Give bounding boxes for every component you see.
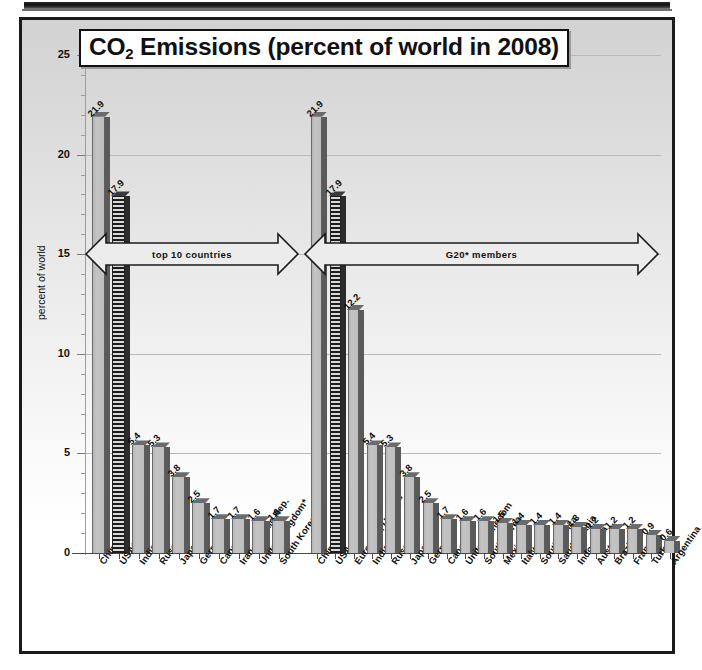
bar-face [385, 447, 396, 553]
bar-side [165, 447, 170, 553]
plot-area: 0510152025percent of world21.9China*17.9… [22, 20, 672, 651]
bar-face [192, 503, 205, 553]
bar-face [460, 521, 471, 553]
chart-frame: 0510152025percent of world21.9China*17.9… [19, 17, 675, 654]
bar-side [378, 445, 383, 553]
bar-side [322, 117, 327, 553]
y-axis-line [85, 53, 86, 555]
bar-face [367, 445, 378, 553]
bar-face [172, 477, 185, 553]
title-text-rest: Emissions (percent of world in 2008) [134, 33, 560, 60]
bar-0-3[interactable] [152, 442, 170, 553]
y-axis-label-25: 25 [36, 48, 70, 60]
y-tick-5 [77, 453, 85, 454]
bar-face [272, 521, 285, 553]
chart-title: CO2 Emissions (percent of world in 2008) [79, 29, 569, 67]
bar-face [441, 519, 452, 553]
bar-face [627, 529, 638, 553]
bar-face [571, 527, 582, 553]
gridline-10 [85, 354, 661, 355]
bar-side [145, 445, 150, 553]
bar-1-0[interactable] [311, 112, 327, 553]
bar-0-2[interactable] [132, 440, 150, 553]
gridline-20 [85, 155, 661, 156]
bar-face [534, 525, 545, 553]
bar-face [132, 445, 145, 553]
y-axis-label-20: 20 [36, 148, 70, 160]
scan-artifact-bar [24, 2, 670, 9]
y-axis-title: percent of world [35, 245, 47, 320]
bar-face [311, 117, 322, 553]
title-subscript: 2 [125, 45, 133, 62]
bar-face [232, 519, 245, 553]
bar-face [553, 525, 564, 553]
bar-face [478, 521, 489, 553]
bar-face [497, 523, 508, 553]
bar-0-4[interactable] [172, 472, 190, 553]
title-text-main: CO [89, 33, 125, 60]
bar-side [359, 310, 364, 553]
bar-1-5[interactable] [404, 472, 420, 553]
bar-face [590, 529, 601, 553]
y-axis-label-0: 0 [36, 546, 70, 558]
bar-face [404, 477, 415, 553]
bar-side [105, 117, 110, 553]
y-tick-20 [77, 155, 85, 156]
bar-face [92, 117, 105, 553]
bar-1-4[interactable] [385, 442, 401, 553]
bar-face [423, 503, 434, 553]
bar-face [212, 519, 225, 553]
bar-face [348, 310, 359, 553]
annotation-arrow-top10: top 10 countries [84, 232, 300, 276]
scan-artifact-bar-shadow [22, 9, 672, 11]
bar-face [516, 525, 527, 553]
annotation-label: top 10 countries [84, 232, 300, 276]
y-axis-label-10: 10 [36, 347, 70, 359]
annotation-arrow-g20: G20* members [303, 232, 660, 276]
bar-0-0[interactable] [92, 112, 110, 553]
y-axis-label-5: 5 [36, 446, 70, 458]
bar-face [152, 447, 165, 553]
bar-1-3[interactable] [367, 440, 383, 553]
bar-1-2[interactable] [348, 305, 364, 553]
bar-side [396, 447, 401, 553]
annotation-label: G20* members [303, 232, 660, 276]
y-tick-10 [77, 354, 85, 355]
bar-face [252, 521, 265, 553]
